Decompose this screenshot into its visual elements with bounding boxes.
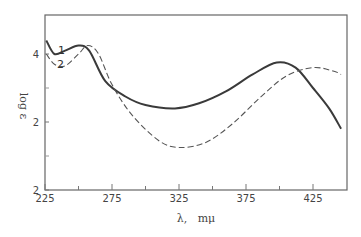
curve-labels: 1 2 bbox=[57, 44, 65, 71]
series-1-line bbox=[46, 40, 341, 128]
y-tick-label: 2 bbox=[33, 117, 39, 128]
uv-spectrum-chart: 225275325375425 422 1 2 λ, mμ log ε bbox=[0, 0, 361, 237]
x-tick-label: 425 bbox=[303, 193, 322, 204]
x-axis-ticks: 225275325375425 bbox=[35, 184, 322, 204]
curve-2-label: 2 bbox=[57, 58, 64, 71]
x-tick-label: 275 bbox=[102, 193, 121, 204]
x-tick-label: 325 bbox=[169, 193, 188, 204]
x-tick-label: 375 bbox=[236, 193, 255, 204]
y-tick-label: 4 bbox=[33, 49, 39, 60]
data-series bbox=[46, 40, 341, 147]
x-axis-label: λ, mμ bbox=[177, 212, 216, 225]
plot-frame bbox=[45, 15, 347, 190]
y-axis-ticks: 422 bbox=[33, 49, 49, 196]
series-2-line bbox=[46, 46, 341, 148]
curve-1-label: 1 bbox=[58, 44, 65, 57]
y-axis-label: log ε bbox=[17, 93, 30, 120]
y-tick-label: 2 bbox=[33, 185, 39, 196]
